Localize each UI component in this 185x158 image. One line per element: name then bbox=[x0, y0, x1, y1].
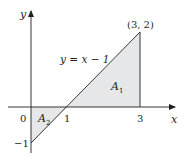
tick-label-x1: 1 bbox=[64, 113, 70, 124]
point-label-3-2: (3, 2) bbox=[127, 19, 154, 30]
diagram-canvas: y x 0 1 3 −1 (3, 2) y = x − 1 A1 A2 bbox=[0, 0, 185, 158]
origin-label: 0 bbox=[20, 113, 26, 124]
equation-label: y = x − 1 bbox=[59, 53, 109, 65]
tick-label-y-neg1: −1 bbox=[14, 138, 29, 149]
y-axis-label: y bbox=[19, 8, 27, 21]
tick-label-x3: 3 bbox=[137, 113, 143, 124]
x-axis-label: x bbox=[171, 113, 178, 126]
